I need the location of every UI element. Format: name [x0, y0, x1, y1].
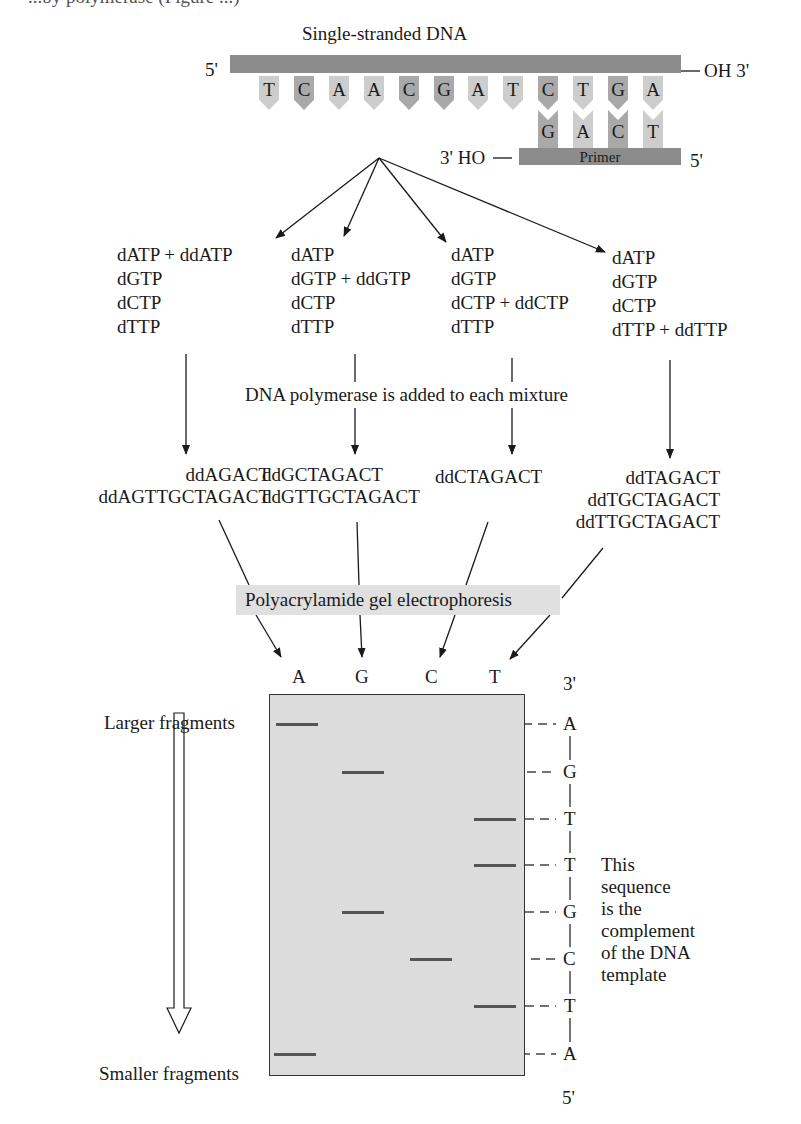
fragment: ddCTAGACT	[435, 466, 542, 488]
lane-label-a: A	[292, 666, 306, 688]
fragment: ddGTTGCTAGACT	[262, 486, 420, 508]
mixture-line: dGTP + ddGTP	[291, 268, 411, 292]
band-g	[342, 771, 384, 774]
mixture-line: dCTP	[117, 292, 233, 316]
primer-3-prime: 3' HO	[440, 147, 485, 169]
fragment: ddTAGACT	[540, 467, 720, 489]
fragment: ddTGCTAGACT	[540, 489, 720, 511]
band-g	[342, 911, 384, 914]
mixture-line: dCTP + ddCTP	[451, 292, 569, 316]
gel-5-prime: 5'	[562, 1087, 575, 1109]
product-g: ddGCTAGACT ddGTTGCTAGACT	[262, 464, 420, 508]
band-a	[274, 1053, 316, 1056]
mixture-line: dTTP	[451, 316, 569, 340]
seq-base: A	[563, 1043, 577, 1065]
band-c	[410, 958, 452, 961]
mixture-a: dATP + ddATP dGTP dCTP dTTP	[117, 244, 233, 340]
primer-5-prime: 5'	[690, 150, 703, 172]
mixture-line: dTTP	[291, 316, 411, 340]
product-c: ddCTAGACT	[435, 466, 542, 488]
band-t	[474, 1005, 516, 1008]
complement-note: This sequence is the complement of the D…	[601, 854, 695, 986]
mixture-line: dTTP + ddTTP	[612, 319, 728, 343]
mixture-g: dATP dGTP + ddGTP dCTP dTTP	[291, 244, 411, 340]
seq-base: C	[563, 948, 576, 970]
note-line: complement	[601, 920, 695, 942]
fragment: ddTTGCTAGACT	[540, 511, 720, 533]
note-line: This	[601, 854, 695, 876]
band-a	[276, 723, 318, 726]
mixture-line: dGTP	[117, 268, 233, 292]
template-3-prime: OH 3'	[704, 60, 749, 82]
seq-base: G	[563, 761, 577, 783]
electrophoresis-label: Polyacrylamide gel electrophoresis	[245, 589, 512, 611]
lane-label-c: C	[425, 666, 438, 688]
size-direction-arrow	[167, 713, 191, 1033]
lane-label-t: T	[489, 666, 501, 688]
note-line: template	[601, 964, 695, 986]
template-title: Single-stranded DNA	[302, 23, 467, 45]
product-a: ddAGACT ddAGTTGCTAGACT	[36, 464, 270, 508]
larger-fragments-label: Larger fragments	[104, 712, 235, 734]
cut-off-caption: ...by polymerase (Figure ...)	[28, 0, 240, 8]
primer-backbone: Primer	[519, 148, 681, 165]
mixture-line: dATP + ddATP	[117, 244, 233, 268]
mixture-line: dATP	[612, 247, 728, 271]
gel	[269, 694, 525, 1076]
template-backbone	[230, 55, 681, 73]
fragment: ddAGACT	[36, 464, 270, 486]
mixture-line: dCTP	[291, 292, 411, 316]
seq-base: T	[564, 854, 576, 876]
mixture-line: dTTP	[117, 316, 233, 340]
note-line: sequence	[601, 876, 695, 898]
mixture-line: dCTP	[612, 295, 728, 319]
gel-3-prime: 3'	[563, 673, 576, 695]
note-line: is the	[601, 898, 695, 920]
polymerase-arrows	[186, 354, 670, 458]
mixture-t: dATP dGTP dCTP dTTP + ddTTP	[612, 247, 728, 343]
polymerase-step-label: DNA polymerase is added to each mixture	[245, 384, 568, 406]
band-t	[474, 818, 516, 821]
mixture-line: dATP	[451, 244, 569, 268]
fragment: ddAGTTGCTAGACT	[36, 486, 270, 508]
mixture-line: dGTP	[451, 268, 569, 292]
seq-base: T	[564, 995, 576, 1017]
mixture-line: dGTP	[612, 271, 728, 295]
seq-base: A	[563, 713, 577, 735]
lane-label-g: G	[355, 666, 369, 688]
product-t: ddTAGACT ddTGCTAGACT ddTTGCTAGACT	[540, 467, 720, 533]
template-5-prime: 5'	[205, 59, 218, 81]
seq-base: T	[564, 808, 576, 830]
fan-arrows	[276, 158, 605, 252]
band-t	[474, 864, 516, 867]
seq-base: G	[563, 901, 577, 923]
mixture-c: dATP dGTP dCTP + ddCTP dTTP	[451, 244, 569, 340]
note-line: of the DNA	[601, 942, 695, 964]
fragment: ddGCTAGACT	[262, 464, 420, 486]
mixture-line: dATP	[291, 244, 411, 268]
smaller-fragments-label: Smaller fragments	[99, 1063, 239, 1085]
